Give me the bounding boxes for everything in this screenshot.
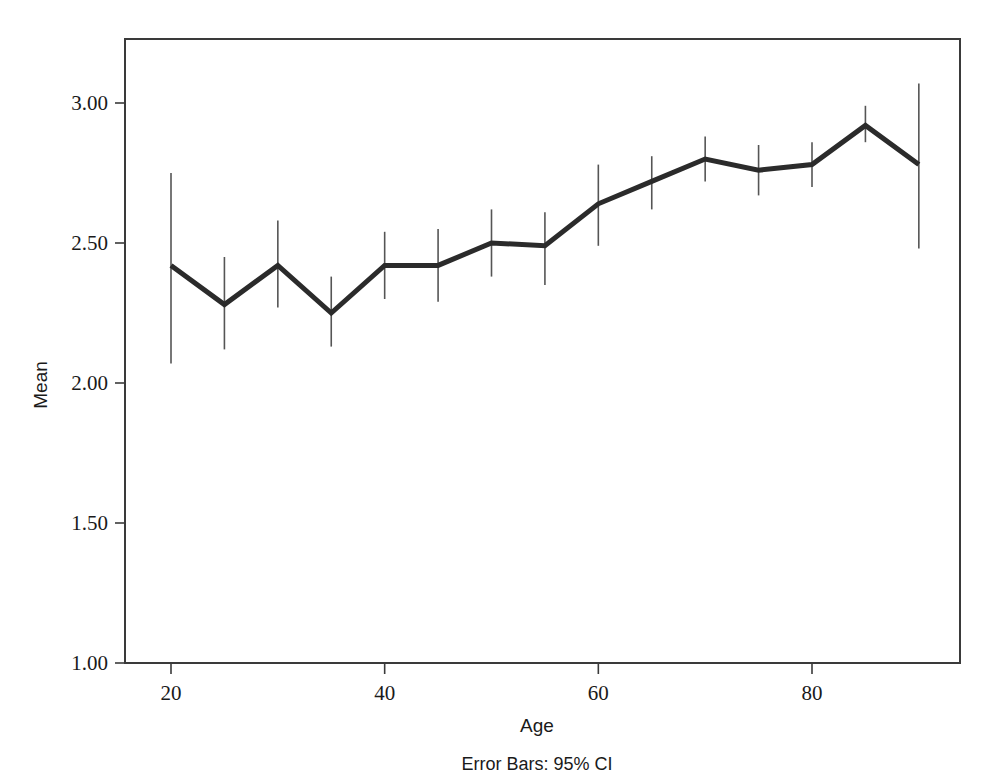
- y-tick-label: 2.00: [71, 371, 108, 395]
- y-tick-label: 2.50: [71, 231, 108, 255]
- x-tick-label: 20: [161, 681, 182, 705]
- x-tick-label: 60: [588, 681, 609, 705]
- x-tick-label: 40: [374, 681, 395, 705]
- y-axis-title: Mean: [30, 361, 51, 409]
- y-tick-label: 1.00: [71, 651, 108, 675]
- line-chart-canvas: 1.001.502.002.503.00 20406080 Mean Age E…: [0, 0, 993, 780]
- y-tick-label: 1.50: [71, 511, 108, 535]
- x-axis-title: Age: [520, 715, 554, 736]
- y-tick-label: 3.00: [71, 91, 108, 115]
- chart-figure: 1.001.502.002.503.00 20406080 Mean Age E…: [0, 0, 993, 780]
- error-bars-caption: Error Bars: 95% CI: [461, 754, 612, 774]
- x-tick-label: 80: [802, 681, 823, 705]
